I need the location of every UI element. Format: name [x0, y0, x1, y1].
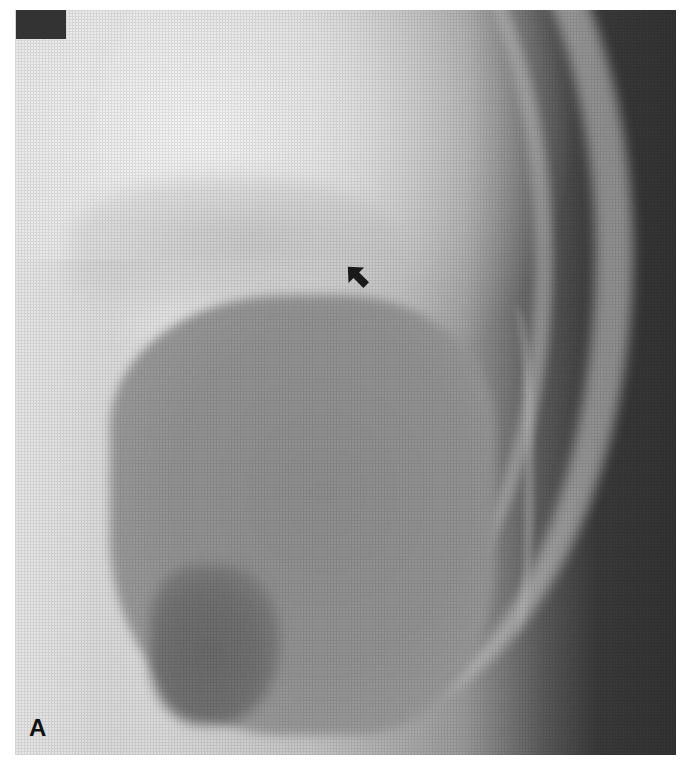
arrow-icon: [341, 260, 373, 292]
bright-left-region: [15, 260, 175, 755]
lesion-mass: [110, 295, 495, 735]
dark-lucency: [150, 565, 280, 725]
lesion-rim: [485, 305, 533, 635]
panel-label: A: [29, 716, 46, 740]
xray-image: [15, 10, 676, 755]
bright-region: [15, 10, 676, 755]
skull-outline: [75, 10, 633, 720]
film-grain: [15, 10, 676, 755]
redaction-box: [16, 10, 66, 39]
skull-inner-table: [115, 10, 553, 670]
